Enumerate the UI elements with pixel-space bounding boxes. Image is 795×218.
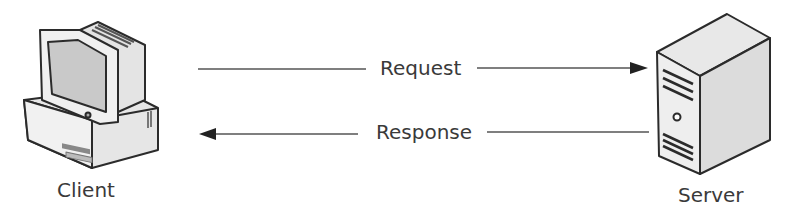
response-arrowhead (199, 128, 216, 140)
tower-server-icon (657, 14, 770, 174)
request-arrowhead (630, 62, 648, 74)
response-label: Response (376, 120, 472, 144)
request-label: Request (380, 56, 461, 80)
client-server-diagram (0, 0, 795, 218)
server-label: Server (678, 183, 744, 207)
desktop-computer-icon (24, 22, 158, 168)
client-label: Client (57, 178, 115, 202)
